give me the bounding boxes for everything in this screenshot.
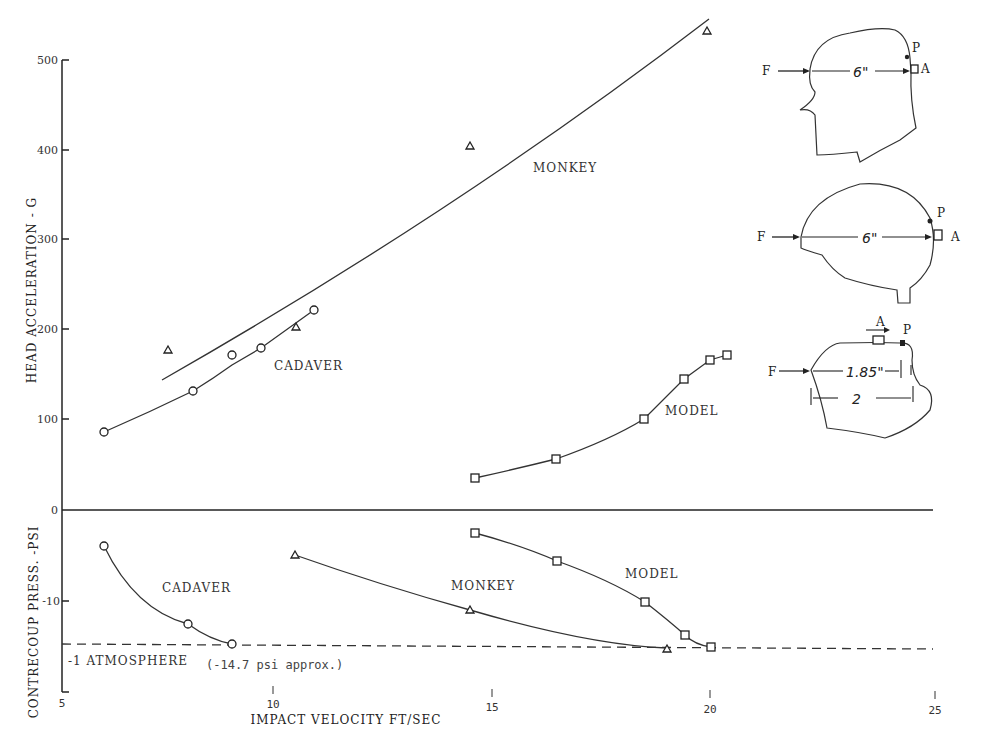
diag1-dist: 6" (853, 64, 868, 80)
monkey-lower-curve (295, 555, 667, 648)
y-tick-0: 0 (51, 504, 58, 517)
y-tick-400: 400 (37, 144, 58, 157)
monkey-fit-curve (162, 19, 709, 380)
atmosphere-dashed-line (62, 644, 933, 649)
diag1-A: A (920, 62, 930, 76)
label-atmosphere: -1 ATMOSPHERE (68, 654, 188, 668)
chart-canvas: 500 400 300 200 100 0 -10 5 10 15 20 25 … (0, 0, 986, 749)
diag2-A: A (950, 230, 960, 244)
diag3-dist: 1.85" (846, 364, 884, 380)
label-monkey-lower: MONKEY (451, 579, 515, 593)
diag3-dist2: 2 (852, 391, 861, 407)
diag3-A: A (875, 315, 885, 329)
diagram-human-head: F 6" P A (762, 29, 930, 162)
x-tick-15: 15 (485, 701, 498, 714)
label-cadaver-upper: CADAVER (274, 359, 343, 373)
diag3-P: P (903, 323, 911, 337)
label-model-lower: MODEL (625, 567, 678, 581)
y-tick-labels: 500 400 300 200 100 0 -10 (37, 54, 60, 608)
y-tick-200: 200 (37, 323, 58, 336)
label-monkey-upper: MONKEY (533, 161, 597, 175)
y-tick-500: 500 (37, 54, 58, 67)
y-axis-label-lower: CONTRECOUP PRESS. -PSI (27, 526, 41, 719)
y-axis (62, 60, 69, 692)
x-tick-labels: 5 10 15 20 25 (59, 686, 942, 717)
diag1-P: P (912, 41, 920, 55)
y-tick-neg10: -10 (42, 595, 60, 608)
monkey-upper-markers (164, 27, 711, 353)
x-axis-label: IMPACT VELOCITY FT/SEC (250, 713, 441, 727)
diag2-F: F (757, 230, 765, 244)
y-axis-label-upper: HEAD ACCELERATION - G (25, 197, 39, 383)
diag3-F: F (768, 365, 776, 379)
y-tick-300: 300 (37, 233, 58, 246)
x-tick-10: 10 (266, 698, 279, 711)
diagram-monkey-head: F 6" P A (757, 184, 960, 303)
y-tick-100: 100 (37, 413, 58, 426)
x-tick-5: 5 (59, 697, 66, 710)
label-atmosphere-note: (-14.7 psi approx.) (206, 658, 343, 672)
diagram-model-head: F 1.85" 2 A P (768, 315, 932, 438)
cadaver-lower-curve (104, 546, 232, 644)
monkey-lower-markers (291, 551, 671, 652)
diag2-P: P (937, 206, 945, 220)
label-model-upper: MODEL (665, 404, 718, 418)
diag2-dist: 6" (862, 230, 877, 246)
diag1-F: F (762, 64, 770, 78)
x-tick-20: 20 (703, 703, 716, 716)
x-tick-25: 25 (928, 704, 941, 717)
cadaver-lower-markers (100, 542, 236, 648)
label-cadaver-lower: CADAVER (162, 581, 231, 595)
